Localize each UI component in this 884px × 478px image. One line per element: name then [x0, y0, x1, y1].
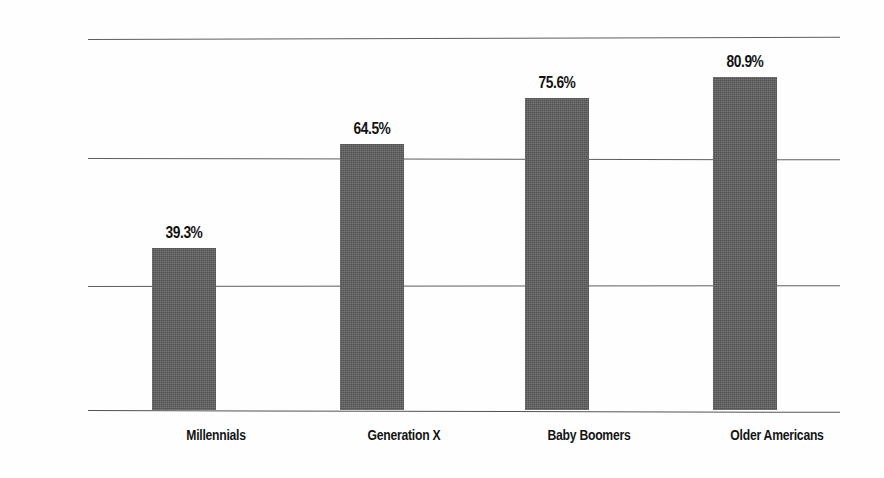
bar-millennials[interactable]	[152, 248, 216, 410]
x-axis-category-labels: Millennials Generation X Baby Boomers Ol…	[88, 428, 840, 458]
x-axis-label-millennials: Millennials	[140, 428, 291, 444]
x-axis-label-older-americans: Older Americans	[701, 428, 852, 444]
bar-chart: 90% 60% 30% 0% 39.3% 64.5% 75.6% 80.9%	[0, 0, 884, 478]
gridline-0-baseline	[88, 410, 840, 413]
bar-older-americans[interactable]	[713, 77, 777, 410]
plot-area: 90% 60% 30% 0% 39.3% 64.5% 75.6% 80.9%	[88, 39, 840, 410]
bar-value-label-older-americans: 80.9%	[699, 54, 792, 70]
bar-value-label-generation-x: 64.5%	[326, 121, 419, 137]
x-axis-label-baby-boomers: Baby Boomers	[513, 428, 664, 444]
bar-value-label-baby-boomers: 75.6%	[511, 75, 604, 91]
x-axis-label-generation-x: Generation X	[328, 428, 479, 444]
bar-layer: 39.3% 64.5% 75.6% 80.9%	[88, 39, 840, 410]
bar-baby-boomers[interactable]	[525, 98, 589, 410]
bar-value-label-millennials: 39.3%	[138, 225, 231, 241]
bar-generation-x[interactable]	[340, 144, 404, 410]
